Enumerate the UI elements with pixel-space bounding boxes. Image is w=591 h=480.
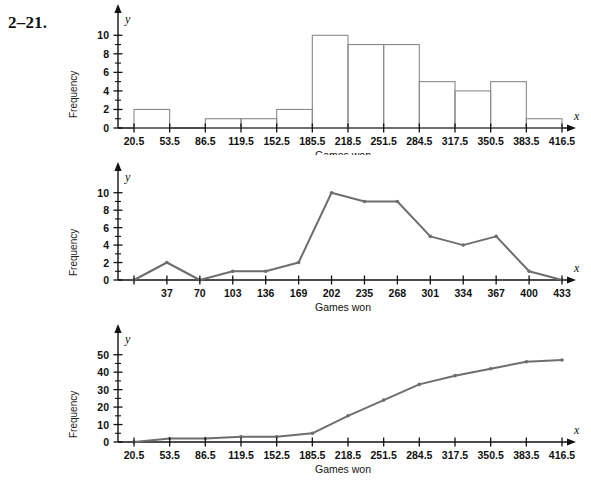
histogram-y-axis-label: Frequency	[68, 71, 79, 118]
x-axis-variable: x	[573, 109, 580, 123]
x-axis-tick-label: 20.5	[124, 135, 145, 147]
figure-page: 2–21. Frequency xy024681020.553.586.5119…	[0, 0, 591, 480]
x-axis-tick-label: 86.5	[195, 135, 216, 147]
x-axis-tick-label: 383.5	[513, 135, 539, 147]
x-axis-tick-label: 235	[356, 287, 374, 299]
ogive-data-point	[418, 383, 422, 387]
histogram-chart: Frequency xy024681020.553.586.5119.5152.…	[0, 0, 591, 155]
histogram-bar	[277, 109, 313, 128]
histogram-bar	[241, 119, 277, 128]
y-axis-tick-label: 10	[97, 187, 109, 199]
x-axis-tick-label: 152.5	[264, 135, 290, 147]
polygon-data-point	[165, 261, 169, 265]
y-axis-variable: y	[124, 170, 131, 184]
histogram-bars	[134, 35, 562, 128]
y-axis-tick-label: 50	[97, 349, 109, 361]
x-axis-tick-label: 53.5	[159, 449, 180, 461]
x-axis-title: Games won	[315, 463, 371, 475]
y-axis-arrow	[114, 162, 121, 171]
polygon-data-point	[527, 269, 531, 273]
ogive-data-markers	[132, 358, 564, 444]
ogive-data-point	[382, 398, 386, 402]
ogive-data-point	[311, 431, 315, 435]
x-axis-tick-label: 119.5	[228, 449, 254, 461]
y-axis-tick-label: 30	[97, 384, 109, 396]
x-axis-tick-label: 218.5	[335, 449, 361, 461]
ogive-data-point	[560, 358, 564, 362]
y-axis-tick-label: 2	[103, 257, 109, 269]
x-axis-arrow	[567, 276, 576, 283]
ogive-data-point	[489, 367, 493, 371]
y-axis-arrow	[114, 4, 121, 13]
polygon-data-point	[363, 200, 367, 204]
x-axis-tick-label: 284.5	[406, 449, 432, 461]
polygon-data-point	[231, 269, 235, 273]
y-axis-tick-label: 20	[97, 401, 109, 413]
x-axis-tick-label: 400	[520, 287, 538, 299]
polygon-data-point	[429, 235, 433, 239]
x-axis-tick-label: 334	[454, 287, 472, 299]
x-axis-tick-label: 119.5	[228, 135, 254, 147]
x-axis-tick-label: 350.5	[478, 449, 504, 461]
polygon-data-point	[461, 243, 465, 247]
y-axis-tick-label: 4	[103, 239, 109, 251]
x-axis-tick-label: 251.5	[371, 449, 397, 461]
histogram-plot: xy024681020.553.586.5119.5152.5185.5218.…	[0, 0, 591, 155]
x-axis-tick-label: 218.5	[335, 135, 361, 147]
x-axis-tick-label: 317.5	[442, 449, 468, 461]
x-axis-tick-label: 169	[290, 287, 308, 299]
ogive-data-point	[346, 414, 350, 418]
x-axis-title: Games won	[315, 149, 371, 155]
polygon-y-axis-label: Frequency	[68, 229, 79, 276]
y-axis-tick-label: 0	[103, 274, 109, 286]
ogive-y-axis-label: Frequency	[68, 391, 79, 438]
histogram-bar	[526, 119, 562, 128]
histogram-bar	[384, 45, 420, 128]
y-axis-tick-label: 0	[103, 436, 109, 448]
ogive-chart: Frequency xy0102030405020.553.586.5119.5…	[0, 320, 591, 480]
x-axis-tick-label: 350.5	[478, 135, 504, 147]
x-axis-tick-label: 152.5	[264, 449, 290, 461]
x-axis-tick-label: 185.5	[299, 135, 325, 147]
x-axis-tick-label: 103	[224, 287, 242, 299]
ogive-plot: xy0102030405020.553.586.5119.5152.5185.5…	[0, 320, 591, 480]
y-axis-tick-label: 10	[97, 419, 109, 431]
x-axis-tick-label: 251.5	[371, 135, 397, 147]
polygon-data-point	[396, 200, 400, 204]
polygon-data-point	[297, 261, 301, 265]
y-axis-variable: y	[124, 332, 131, 346]
y-axis-variable: y	[124, 12, 131, 26]
histogram-bar	[419, 82, 455, 128]
x-axis-tick-label: 20.5	[124, 449, 145, 461]
x-axis-tick-label: 268	[389, 287, 407, 299]
x-axis-tick-label: 416.5	[549, 135, 575, 147]
histogram-bar	[134, 109, 170, 128]
ogive-data-point	[525, 360, 529, 364]
x-axis-tick-label: 86.5	[195, 449, 216, 461]
x-axis-tick-label: 202	[323, 287, 341, 299]
frequency-polygon-plot: xy02468103770103136169202235268301334367…	[0, 158, 591, 318]
y-axis-tick-label: 2	[103, 103, 109, 115]
x-axis-variable: x	[573, 423, 580, 437]
y-axis-tick-label: 6	[103, 222, 109, 234]
x-axis-tick-label: 367	[487, 287, 505, 299]
histogram-bar	[348, 45, 384, 128]
x-axis-tick-label: 317.5	[442, 135, 468, 147]
polygon-data-point	[494, 235, 498, 239]
y-axis-tick-label: 40	[97, 366, 109, 378]
x-axis-tick-label: 433	[553, 287, 571, 299]
x-axis-tick-label: 136	[257, 287, 275, 299]
polygon-data-point	[264, 269, 268, 273]
polygon-data-point	[330, 191, 334, 195]
x-axis-tick-label: 284.5	[406, 135, 432, 147]
histogram-bar	[205, 119, 241, 128]
histogram-bar	[312, 35, 348, 128]
ogive-data-point	[453, 374, 457, 378]
histogram-bar	[491, 82, 527, 128]
histogram-bar	[455, 91, 491, 128]
x-axis-arrow	[567, 124, 576, 131]
y-axis-tick-label: 4	[103, 85, 109, 97]
x-axis-tick-label: 383.5	[513, 449, 539, 461]
x-axis-variable: x	[573, 261, 580, 275]
x-axis-tick-label: 185.5	[299, 449, 325, 461]
